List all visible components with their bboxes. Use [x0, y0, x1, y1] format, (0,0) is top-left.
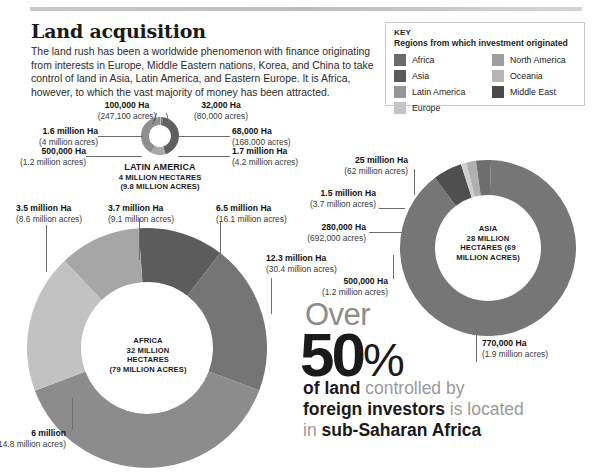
- asia-center-label: ASIA 28 MILLION HECTARES (69 MILLION ACR…: [443, 224, 533, 262]
- legend-item-north-america[interactable]: North America: [492, 52, 566, 68]
- label-africa-35m-ha: 3.5 million Ha: [16, 203, 96, 214]
- latin-center-line3: (9.8 MILLION ACRES): [95, 182, 225, 192]
- leader-latin-17m: [178, 156, 230, 157]
- leader-africa-6m: [72, 398, 73, 430]
- label-africa-123m: 12.3 million Ha (30.4 million acres): [266, 253, 344, 274]
- asia-center-line4: MILLION ACRES): [443, 253, 533, 263]
- legend-label-asia: Asia: [412, 71, 429, 81]
- label-latin-32k-acres: (80,000 acres): [194, 111, 248, 121]
- label-asia-25m: 25 million Ha (62 million acres): [296, 155, 408, 176]
- asia-center-line3: HECTARES (69: [443, 243, 533, 253]
- label-africa-123m-ha: 12.3 million Ha: [266, 253, 344, 264]
- legend-item-middle-east[interactable]: Middle East: [492, 84, 566, 100]
- asia-center-line1: ASIA: [443, 224, 533, 234]
- header-rule: [30, 7, 582, 11]
- label-latin-100k-acres: (247,100 acres): [98, 111, 157, 121]
- asia-center-line2: 28 MILLION: [443, 234, 533, 244]
- legend-label-north-america: North America: [510, 55, 566, 65]
- label-latin-32k: 32,000 Ha (80,000 acres): [176, 100, 266, 121]
- latin-america-center-label: LATIN AMERICA 4 MILLION HECTARES (9.8 MI…: [95, 163, 225, 192]
- legend-subtitle: Regions from which investment originated: [394, 38, 568, 48]
- page-title: Land acquisition: [31, 20, 391, 42]
- leader-asia-15m: [379, 208, 405, 209]
- africa-center-line3: HECTARES: [92, 355, 204, 365]
- label-asia-770k: 770,000 Ha (1.9 million acres): [482, 338, 552, 359]
- statement-line-3: in sub-Saharan Africa: [303, 420, 481, 441]
- legend-swatch-north-america: [492, 54, 504, 66]
- latin-center-line1: LATIN AMERICA: [95, 163, 225, 173]
- label-asia-500k-ha: 500,000 Ha: [312, 276, 388, 287]
- leader-asia-770k: [476, 330, 477, 362]
- legend-item-africa[interactable]: Africa: [394, 52, 465, 68]
- label-latin-100k: 100,000 Ha (247,100 acres): [82, 100, 172, 121]
- legend-swatch-latin-america: [394, 86, 406, 98]
- label-asia-15m: 1.5 million Ha (3.7 million acres): [280, 188, 376, 209]
- legend-label-middle-east: Middle East: [510, 87, 556, 97]
- label-africa-123m-acres: (30.4 million acres): [266, 264, 337, 274]
- label-latin-32k-ha: 32,000 Ha: [176, 100, 266, 111]
- legend-label-africa: Africa: [412, 55, 435, 65]
- africa-center-line2: 32 MILLION: [92, 346, 204, 356]
- label-latin-100k-ha: 100,000 Ha: [82, 100, 172, 111]
- legend-item-europe[interactable]: Europe: [394, 100, 465, 116]
- statement-line2-rest: is located: [445, 399, 524, 419]
- donut-segment: [35, 371, 259, 468]
- label-asia-280k: 280,000 Ha (692,000 acres): [274, 222, 366, 243]
- legend-item-asia[interactable]: Asia: [394, 68, 465, 84]
- africa-center-line1: AFRICA: [92, 336, 204, 346]
- label-africa-37m-acres: (9.1 million acres): [108, 214, 174, 224]
- label-latin-500k: 500,000 Ha (1.2 million acres): [0, 146, 86, 167]
- latin-america-donut-svg: [141, 117, 179, 155]
- label-latin-500k-acres: (1.2 million acres): [20, 157, 86, 167]
- africa-center-line4: (79 MILLION ACRES): [92, 365, 204, 375]
- label-africa-35m: 3.5 million Ha (8.6 million acres): [16, 203, 96, 224]
- intro-paragraph: The land rush has been a worldwide pheno…: [31, 45, 383, 99]
- leader-asia-500k: [393, 255, 394, 279]
- legend-label-europe: Europe: [412, 103, 440, 113]
- label-africa-37m-ha: 3.7 million Ha: [108, 203, 200, 214]
- statement-line3-rest: in: [303, 420, 321, 440]
- statement-line1-rest: controlled by: [360, 378, 464, 398]
- label-latin-17m-acres: (4.2 million acres): [232, 157, 298, 167]
- legend-swatch-africa: [394, 54, 406, 66]
- statement-line3-bold: sub-Saharan Africa: [321, 420, 481, 440]
- donut-segment: [162, 117, 179, 154]
- legend-swatch-europe: [394, 102, 406, 114]
- label-africa-35m-acres: (8.6 million acres): [16, 214, 82, 224]
- label-africa-6m: 6 million (14.8 million acres): [0, 428, 66, 449]
- legend-column-left: Africa Asia Latin America Europe: [394, 52, 465, 116]
- label-asia-25m-ha: 25 million Ha: [296, 155, 408, 166]
- label-africa-6m-ha: 6 million: [0, 428, 66, 439]
- label-asia-500k-acres: (1.2 million acres): [322, 287, 388, 297]
- infographic-canvas: Land acquisition The land rush has been …: [0, 0, 592, 474]
- legend-label-oceania: Oceania: [510, 71, 543, 81]
- label-latin-16m: 1.6 million Ha (4 million acres): [8, 126, 98, 147]
- label-asia-25m-acres: (62 million acres): [344, 166, 408, 176]
- label-latin-68k: 68,000 Ha (168,000 acres): [232, 126, 342, 147]
- leader-latin-68k: [178, 136, 230, 137]
- legend-swatch-asia: [394, 70, 406, 82]
- leader-latin-500k: [86, 156, 142, 157]
- leader-africa-123m: [271, 278, 272, 314]
- latin-america-donut-chart: [141, 117, 179, 155]
- africa-center-label: AFRICA 32 MILLION HECTARES (79 MILLION A…: [92, 336, 204, 374]
- label-asia-770k-ha: 770,000 Ha: [482, 338, 552, 349]
- statement-line-2: foreign investors is located: [303, 399, 524, 420]
- leader-africa-37m: [139, 218, 140, 260]
- latin-center-line2: 4 MILLION HECTARES: [95, 173, 225, 183]
- statement-line-1: of land controlled by: [303, 378, 464, 399]
- legend-item-latin-america[interactable]: Latin America: [394, 84, 465, 100]
- label-asia-280k-acres: (692,000 acres): [307, 233, 366, 243]
- label-latin-68k-ha: 68,000 Ha: [232, 126, 342, 137]
- statement-line2-bold: foreign investors: [303, 399, 445, 419]
- legend-column-right: North America Oceania Middle East: [492, 52, 566, 100]
- leader-asia-25m: [414, 169, 415, 195]
- leader-africa-35m: [46, 225, 47, 272]
- label-asia-15m-ha: 1.5 million Ha: [280, 188, 376, 199]
- statement-line1-bold: of land: [303, 378, 360, 398]
- label-latin-500k-ha: 500,000 Ha: [0, 146, 86, 157]
- legend-item-oceania[interactable]: Oceania: [492, 68, 566, 84]
- legend-swatch-oceania: [492, 70, 504, 82]
- legend-swatch-middle-east: [492, 86, 504, 98]
- label-asia-15m-acres: (3.7 million acres): [310, 199, 376, 209]
